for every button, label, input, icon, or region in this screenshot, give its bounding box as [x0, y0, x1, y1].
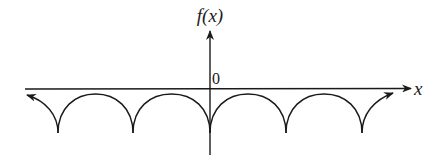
x-axis [25, 89, 411, 90]
origin-label: 0 [212, 70, 220, 87]
curve-left-end [27, 95, 58, 133]
curve-arch-4 [286, 94, 362, 133]
curve-right-end [362, 93, 393, 133]
curve-arch-1 [58, 94, 133, 133]
curve-arch-2 [133, 94, 210, 133]
y-axis-label: f(x) [197, 5, 223, 27]
function-graph: f(x) x 0 [0, 0, 429, 157]
curve-arch-3 [210, 94, 286, 133]
x-axis-label: x [413, 78, 423, 99]
